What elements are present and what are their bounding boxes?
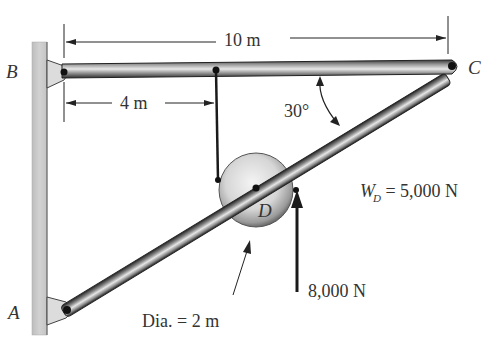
pulley-tangent-left <box>215 177 221 183</box>
label-point-a: A <box>8 303 20 322</box>
truss-pulley-diagram: B C A D 10 m 4 m 30° Dia. = 2 m WD = 5,0… <box>0 0 503 347</box>
pin-b <box>61 69 68 76</box>
pin-a <box>63 306 71 314</box>
label-angle-30: 30° <box>284 102 309 120</box>
label-dimension-4m: 4 m <box>120 94 148 112</box>
force-arrow-8000n <box>291 190 303 292</box>
wall-support <box>32 42 47 335</box>
label-point-d: D <box>258 201 272 220</box>
label-point-c: C <box>468 58 481 77</box>
label-force-8000n: 8,000 N <box>308 282 366 300</box>
pin-c <box>448 62 456 70</box>
label-pulley-diameter: Dia. = 2 m <box>142 312 219 330</box>
cable-vertical <box>216 70 218 180</box>
pulley-tangent-right <box>293 187 299 193</box>
label-point-b: B <box>6 62 18 81</box>
diameter-leader <box>233 240 251 295</box>
member-bc <box>62 60 457 78</box>
label-weight-d: WD = 5,000 N <box>360 182 458 200</box>
pulley-center-pin <box>253 185 260 192</box>
cable-attach-pin <box>213 67 220 74</box>
label-dimension-10m: 10 m <box>224 31 261 49</box>
angle-arc-30deg <box>316 76 340 126</box>
label-weight-subscript: D <box>373 192 381 204</box>
diagram-canvas <box>0 0 503 347</box>
label-weight-value: = 5,000 N <box>381 181 458 201</box>
